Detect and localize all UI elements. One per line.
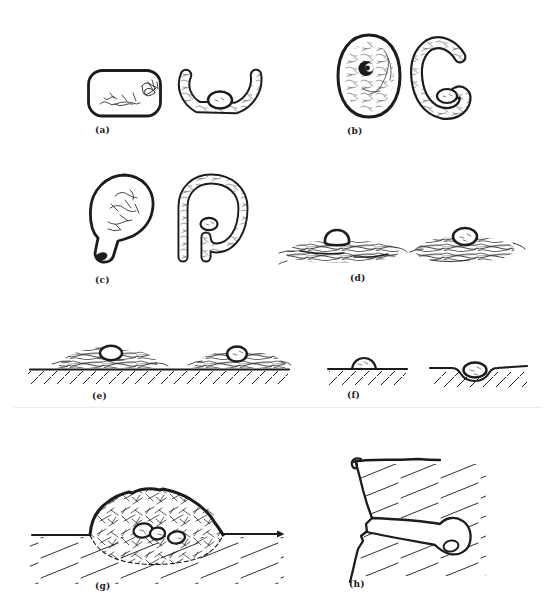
panel-b-label: (b) [347, 126, 362, 136]
panel-f-drawing [328, 358, 527, 387]
figure-canvas: (a) (b) (c) (d) (e) (f) (g) (h) [0, 0, 555, 593]
panel-h-label: (h) [349, 579, 365, 589]
egg [100, 346, 122, 360]
egg [352, 358, 376, 369]
egg [464, 363, 487, 378]
panel-g-drawing [30, 489, 285, 584]
egg [437, 89, 457, 103]
panel-h-drawing [338, 452, 486, 588]
egg [201, 218, 218, 230]
ground-line-arrowhead [277, 531, 285, 538]
panel-d-label: (d) [350, 273, 365, 283]
entrance-hole-core [365, 66, 370, 71]
panel-e-label: (e) [92, 391, 107, 401]
panel-c-label: (c) [95, 275, 110, 285]
pendant-nest-outline [90, 175, 153, 262]
panel-a-label: (a) [95, 125, 110, 135]
panel-g-label: (g) [95, 581, 110, 591]
page-fold-line [14, 407, 542, 408]
cliff-top-line [352, 459, 440, 462]
egg [227, 346, 247, 361]
ground-hatching [28, 371, 288, 384]
panel-e-drawing [28, 346, 291, 384]
panel-a-drawing [89, 71, 257, 117]
panel-f-label: (f) [347, 390, 360, 400]
egg [208, 92, 232, 109]
ground-hatching [329, 371, 406, 385]
panel-b-drawing [338, 35, 465, 117]
panel-d-drawing [279, 228, 525, 264]
nest-wall-texture [344, 42, 394, 112]
egg [150, 527, 166, 540]
domed-nest-section [417, 43, 466, 114]
nest-types-illustration [0, 0, 555, 593]
egg [453, 228, 477, 245]
egg [325, 230, 349, 245]
panel-c-drawing [90, 175, 243, 262]
